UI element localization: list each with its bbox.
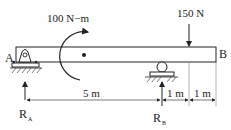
reaction-b-subscript: B <box>162 120 166 126</box>
reaction-b: R B <box>153 82 166 126</box>
reaction-b-label: R <box>153 111 161 125</box>
point-load: 150 N <box>177 7 204 46</box>
load-label: 150 N <box>177 7 204 19</box>
dim-ab-label: 5 m <box>83 87 100 99</box>
reaction-a: R A <box>19 82 33 122</box>
beam <box>16 47 216 62</box>
dim-load-end-label: 1 m <box>194 87 211 99</box>
applied-moment: 100 N−m <box>47 12 89 80</box>
roller-support-b <box>145 62 178 82</box>
moment-label: 100 N−m <box>47 12 89 24</box>
dim-b-load-label: 1 m <box>167 87 184 99</box>
label-b: B <box>219 47 227 61</box>
dimensions: 5 m 1 m 1 m <box>27 62 216 106</box>
reaction-a-subscript: A <box>28 116 33 122</box>
reaction-a-label: R <box>19 107 27 121</box>
beam-center-dot <box>82 53 86 57</box>
beam-diagram: A B 100 N−m <box>0 0 231 130</box>
